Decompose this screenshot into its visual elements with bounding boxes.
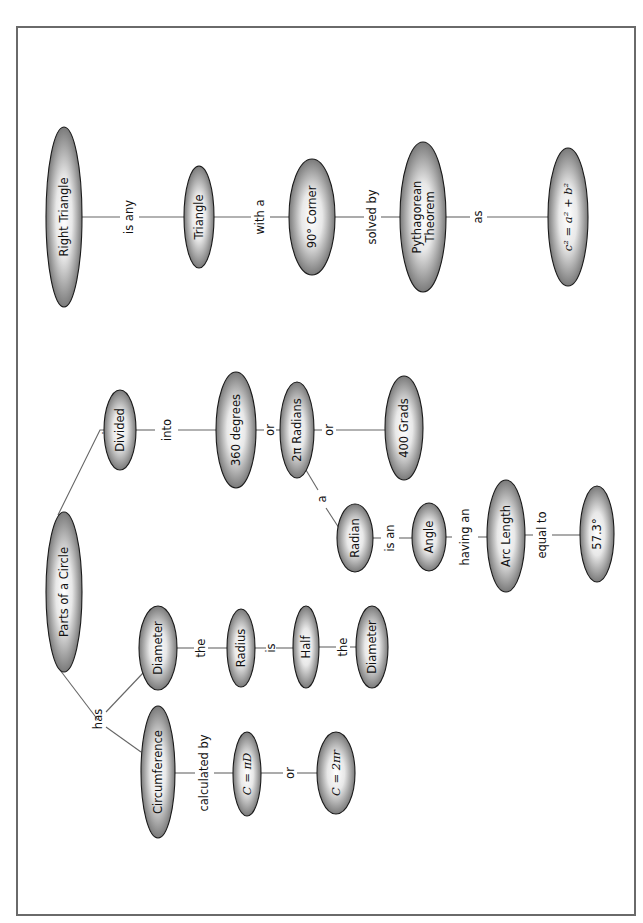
link-label: with a [253,199,267,234]
node-parts-of-a-circle[interactable]: Parts of a Circle [46,512,82,672]
svg-text:2π Radians: 2π Radians [290,398,304,462]
svg-text:400 Grads: 400 Grads [397,398,411,458]
node-radius[interactable]: Radius [227,609,255,687]
node-360-degrees[interactable]: 360 degrees [216,372,256,488]
svg-text:Radian: Radian [348,518,362,558]
link-label: calculated by [197,734,211,811]
svg-text:Divided: Divided [113,408,127,452]
svg-text:Theorem: Theorem [423,191,437,243]
svg-text:Diameter: Diameter [365,620,379,674]
svg-text:c² = a² + b²: c² = a² + b² [561,182,575,251]
svg-text:Pythagorean: Pythagorean [410,181,424,254]
node-divided[interactable]: Divided [104,390,136,470]
node-diameter[interactable]: Diameter [139,606,177,690]
svg-text:90° Corner: 90° Corner [305,185,319,248]
link-label: as [471,210,485,223]
node-pythagorean-theorem[interactable]: Pythagorean Theorem [400,142,446,292]
link-label: equal to [535,511,549,558]
svg-text:Angle: Angle [422,521,436,554]
link-label: or [263,424,277,436]
svg-text:Arc Length: Arc Length [499,505,513,567]
svg-text:Right Triangle: Right Triangle [57,177,71,256]
svg-text:360 degrees: 360 degrees [229,394,243,466]
link-label: solved by [365,189,379,244]
node-c-equals-2-pi-r[interactable]: C = 2πr [317,732,355,814]
svg-text:Radius: Radius [234,629,248,668]
svg-text:Triangle: Triangle [192,194,206,240]
svg-text:Parts of a Circle: Parts of a Circle [57,547,71,637]
link-label: having an [458,509,472,566]
node-c-equals-pi-d[interactable]: C = πD [233,732,261,816]
node-57-3-degrees[interactable]: 57.3° [580,486,614,582]
link-label: or [322,424,336,436]
node-radian[interactable]: Radian [337,504,373,572]
link-label: the [336,638,350,657]
link-label: or [283,767,297,779]
edge-root-is [58,430,104,515]
svg-text:Diameter: Diameter [151,621,165,675]
link-label: is an [383,524,397,551]
node-arc-length[interactable]: Arc Length [487,480,525,592]
node-circumference[interactable]: Circumference [141,706,175,838]
link-label: the [194,639,208,658]
node-half[interactable]: Half [293,606,319,688]
link-label: into [160,419,174,441]
link-label: has [91,709,105,729]
node-angle[interactable]: Angle [412,503,446,571]
node-triangle[interactable]: Triangle [184,166,214,268]
link-label: a [315,495,329,502]
svg-text:57.3°: 57.3° [590,518,604,549]
svg-text:Half: Half [299,635,313,659]
node-right-triangle[interactable]: Right Triangle [46,127,82,307]
node-pythagorean-formula[interactable]: c² = a² + b² [548,148,588,286]
svg-text:C = 2πr: C = 2πr [329,748,343,796]
svg-text:C = πD: C = πD [240,753,254,796]
node-2pi-radians[interactable]: 2π Radians [280,382,314,478]
link-label: is any [122,200,136,234]
node-diameter-2[interactable]: Diameter [356,606,388,688]
link-label: is [264,643,278,652]
concept-map: is into or or a is an having an equal to… [0,0,643,923]
svg-text:Circumference: Circumference [151,730,165,814]
node-400-grads[interactable]: 400 Grads [385,376,423,480]
node-90-degree-corner[interactable]: 90° Corner [289,159,335,275]
